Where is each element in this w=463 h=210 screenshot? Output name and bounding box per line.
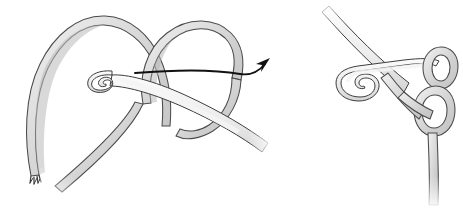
crochet-hook-right-fade bbox=[314, 0, 348, 34]
illustration-canvas bbox=[0, 0, 463, 210]
yarn-standing-end-fade bbox=[420, 176, 450, 210]
crochet-hook-fade bbox=[248, 128, 274, 162]
crochet-knot-figure bbox=[0, 0, 463, 210]
yarn-working-end-fade bbox=[40, 168, 78, 210]
